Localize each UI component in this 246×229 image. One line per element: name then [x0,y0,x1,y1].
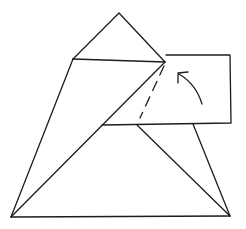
base-edge [11,216,230,217]
left-edge [11,59,73,217]
folded-rectangle [102,55,231,125]
top-triangle [73,13,165,62]
fold-line-dashed [140,66,164,118]
lower-inner-line [137,125,230,216]
lower-right-edge [193,124,230,216]
top-horizontal-edge [73,59,165,62]
main-diagonal [11,62,165,217]
fold-arrow-icon [179,74,202,104]
origami-diagram [0,0,246,229]
